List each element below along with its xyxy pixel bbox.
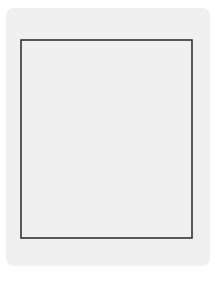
xiangqi-board bbox=[0, 0, 215, 283]
board-border bbox=[21, 40, 192, 238]
